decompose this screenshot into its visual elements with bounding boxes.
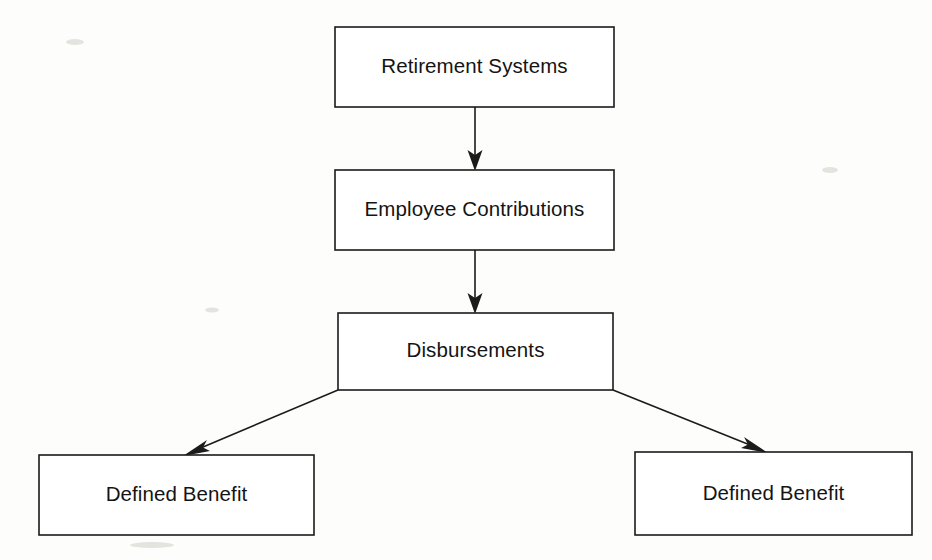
edge-disbursements-to-left-benefit: [183, 390, 338, 456]
arrowhead-diagonal-left: [183, 440, 210, 456]
node-retirement-systems-label: Retirement Systems: [381, 54, 567, 77]
node-retirement-systems[interactable]: Retirement Systems: [335, 27, 614, 107]
node-defined-benefit-right-label: Defined Benefit: [703, 481, 845, 504]
node-defined-benefit-left-label: Defined Benefit: [106, 482, 248, 505]
edge-retirement-to-contributions: [468, 107, 483, 171]
edge-contributions-to-disbursements: [468, 250, 483, 314]
edge-line-3: [196, 390, 338, 450]
node-defined-benefit-left[interactable]: Defined Benefit: [39, 455, 314, 535]
node-disbursements[interactable]: Disbursements: [338, 313, 613, 390]
node-employee-contributions[interactable]: Employee Contributions: [335, 170, 614, 250]
flowchart-canvas: Retirement Systems Employee Contribution…: [0, 0, 932, 560]
arrowhead-diagonal-right: [741, 437, 768, 453]
edge-disbursements-to-right-benefit: [613, 390, 768, 453]
flowchart-svg: Retirement Systems Employee Contribution…: [0, 0, 932, 560]
node-employee-contributions-label: Employee Contributions: [365, 197, 585, 220]
node-disbursements-label: Disbursements: [406, 338, 544, 361]
node-defined-benefit-right[interactable]: Defined Benefit: [635, 452, 912, 535]
edge-line-4: [613, 390, 755, 447]
